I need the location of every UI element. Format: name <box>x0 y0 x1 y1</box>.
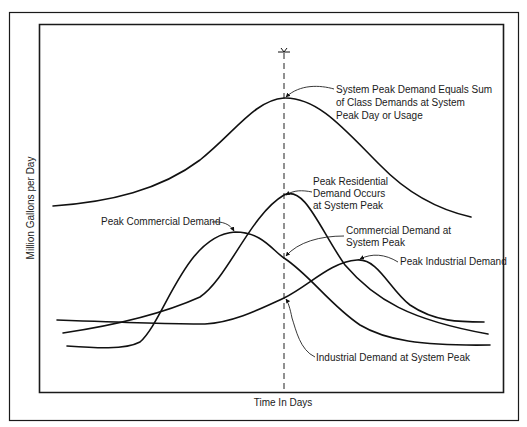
demand-diagram: System Peak Demand Equals Sum of Class D… <box>0 0 527 427</box>
industrial-at-system-peak-label: Industrial Demand at System Peak <box>316 352 471 363</box>
plot-area-border <box>40 25 504 393</box>
industrial-demand-curve <box>57 260 484 324</box>
commercial-peak-label: Peak Commercial Demand <box>101 216 221 227</box>
system-peak-label: System Peak Demand Equals Sum of Class D… <box>336 84 495 121</box>
industrial-peak-label: Peak Industrial Demand <box>400 256 507 267</box>
system-peak-marker-icon <box>278 48 290 52</box>
y-axis-label: Million Gallons per Day <box>25 157 36 260</box>
residential-peak-label: Peak Residential Demand Occurs at System… <box>313 176 391 211</box>
commercial-at-system-peak-label: Commercial Demand at System Peak <box>346 225 454 248</box>
commercial-demand-curve <box>67 232 490 348</box>
plot-frame <box>40 25 504 193</box>
industrial-at-system-peak-leader <box>286 299 315 357</box>
system-peak-leader <box>286 86 334 97</box>
x-axis-label: Time In Days <box>254 397 313 408</box>
commercial-at-system-peak-leader <box>286 236 344 256</box>
